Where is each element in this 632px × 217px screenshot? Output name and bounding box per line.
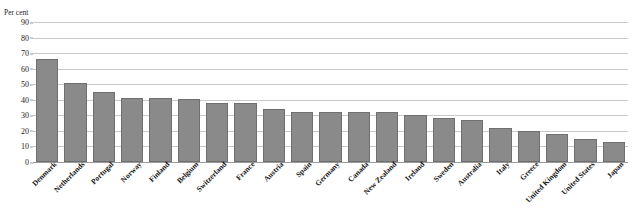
y-axis-tick-40: 40 (5, 95, 29, 104)
bar-slot (260, 22, 288, 162)
x-label-slot: Spain (288, 163, 316, 217)
x-label-slot: Sweden (430, 163, 458, 217)
x-axis-label-text: France (234, 160, 256, 182)
x-label-slot: Australia (458, 163, 486, 217)
bar-slot (175, 22, 203, 162)
bar-slot (515, 22, 543, 162)
x-axis-label-text: Portugal (89, 160, 115, 186)
x-label-slot: New Zealand (373, 163, 401, 217)
bar-slot (316, 22, 344, 162)
x-label-slot: Finland (146, 163, 174, 217)
bar-slot (61, 22, 89, 162)
x-label-slot: Ireland (401, 163, 429, 217)
plot-area: 9080706050403020100 (33, 22, 628, 162)
x-axis-label-text: Belgium (175, 160, 200, 185)
x-label-slot: France (231, 163, 259, 217)
y-axis-tick-80: 80 (5, 33, 29, 42)
y-axis-tick-60: 60 (5, 64, 29, 73)
y-axis-tick-50: 50 (5, 80, 29, 89)
bar-slot (288, 22, 316, 162)
bar-slot (118, 22, 146, 162)
x-axis-label-text: Italy (495, 160, 512, 177)
bar-slot (430, 22, 458, 162)
x-axis-label-text: Norway (119, 160, 144, 185)
bar[interactable] (36, 59, 58, 162)
y-axis-tick-90: 90 (5, 18, 29, 27)
x-axis-label-text: Sweden (431, 160, 455, 184)
x-label-slot: Italy (486, 163, 514, 217)
bar-slot (33, 22, 61, 162)
x-axis-label-text: Spain (294, 160, 314, 180)
y-axis-tick-30: 30 (5, 111, 29, 120)
x-label-slot: Japan (600, 163, 628, 217)
bar-slot (543, 22, 571, 162)
x-label-slot: Norway (118, 163, 146, 217)
y-axis-unit-label: Per cent (4, 8, 28, 17)
x-label-slot: Germany (316, 163, 344, 217)
x-axis-label-text: Greece (518, 160, 540, 182)
x-axis-label-text: Finland (148, 160, 172, 184)
x-axis-label-text: Austria (262, 160, 286, 184)
x-label-slot: Portugal (90, 163, 118, 217)
bar-series (33, 22, 628, 162)
x-axis-label-text: Germany (314, 160, 342, 188)
x-axis-labels: DenmarkNetherlandsPortugalNorwayFinlandB… (33, 163, 628, 217)
x-label-slot: United States (571, 163, 599, 217)
bar-slot (146, 22, 174, 162)
x-axis-label-text: Japan (605, 160, 625, 180)
x-axis-label-text: Canada (346, 160, 370, 184)
chart-title (0, 0, 632, 1)
x-axis-label-text: Australia (456, 160, 484, 188)
x-label-slot: Austria (260, 163, 288, 217)
y-axis-tick-20: 20 (5, 126, 29, 135)
bar-slot (458, 22, 486, 162)
bar-slot (373, 22, 401, 162)
y-axis-tick-10: 10 (5, 142, 29, 151)
bar-slot (203, 22, 231, 162)
bar-slot (486, 22, 514, 162)
bar-chart: Per cent 9080706050403020100 DenmarkNeth… (0, 0, 632, 217)
bar-slot (345, 22, 373, 162)
y-axis-tick-0: 0 (5, 158, 29, 167)
x-label-slot: Netherlands (61, 163, 89, 217)
x-axis-label-text: Ireland (404, 160, 427, 183)
y-axis-tick-70: 70 (5, 49, 29, 58)
x-label-slot: Switzerland (203, 163, 231, 217)
